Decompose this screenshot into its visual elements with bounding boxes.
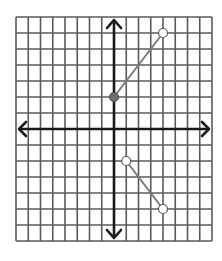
segment-2-line	[126, 161, 163, 209]
axes	[19, 20, 209, 238]
open-point-icon	[159, 205, 168, 214]
open-point-icon	[159, 29, 168, 38]
open-point-icon	[122, 157, 131, 166]
coordinate-plane	[0, 0, 222, 261]
closed-point-icon	[110, 93, 119, 102]
